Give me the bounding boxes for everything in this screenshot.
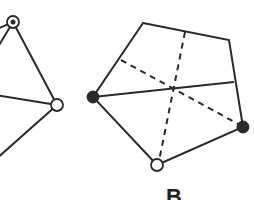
right-edge-dashed bbox=[159, 32, 185, 161]
left-vertex-open-icon bbox=[51, 99, 63, 111]
left-vertex-dot-icon bbox=[11, 20, 16, 25]
right-vertex-open-icon bbox=[151, 159, 163, 171]
left-edge-solid bbox=[0, 95, 57, 105]
right-vertex-filled-icon bbox=[87, 91, 99, 103]
right-vertex-filled-icon bbox=[237, 121, 249, 133]
left-edge-solid bbox=[13, 22, 57, 105]
figure-label-b: B bbox=[166, 186, 182, 200]
graph-diagram bbox=[0, 0, 254, 200]
left-edge-solid bbox=[0, 105, 57, 160]
diagram-canvas: B bbox=[0, 0, 254, 200]
